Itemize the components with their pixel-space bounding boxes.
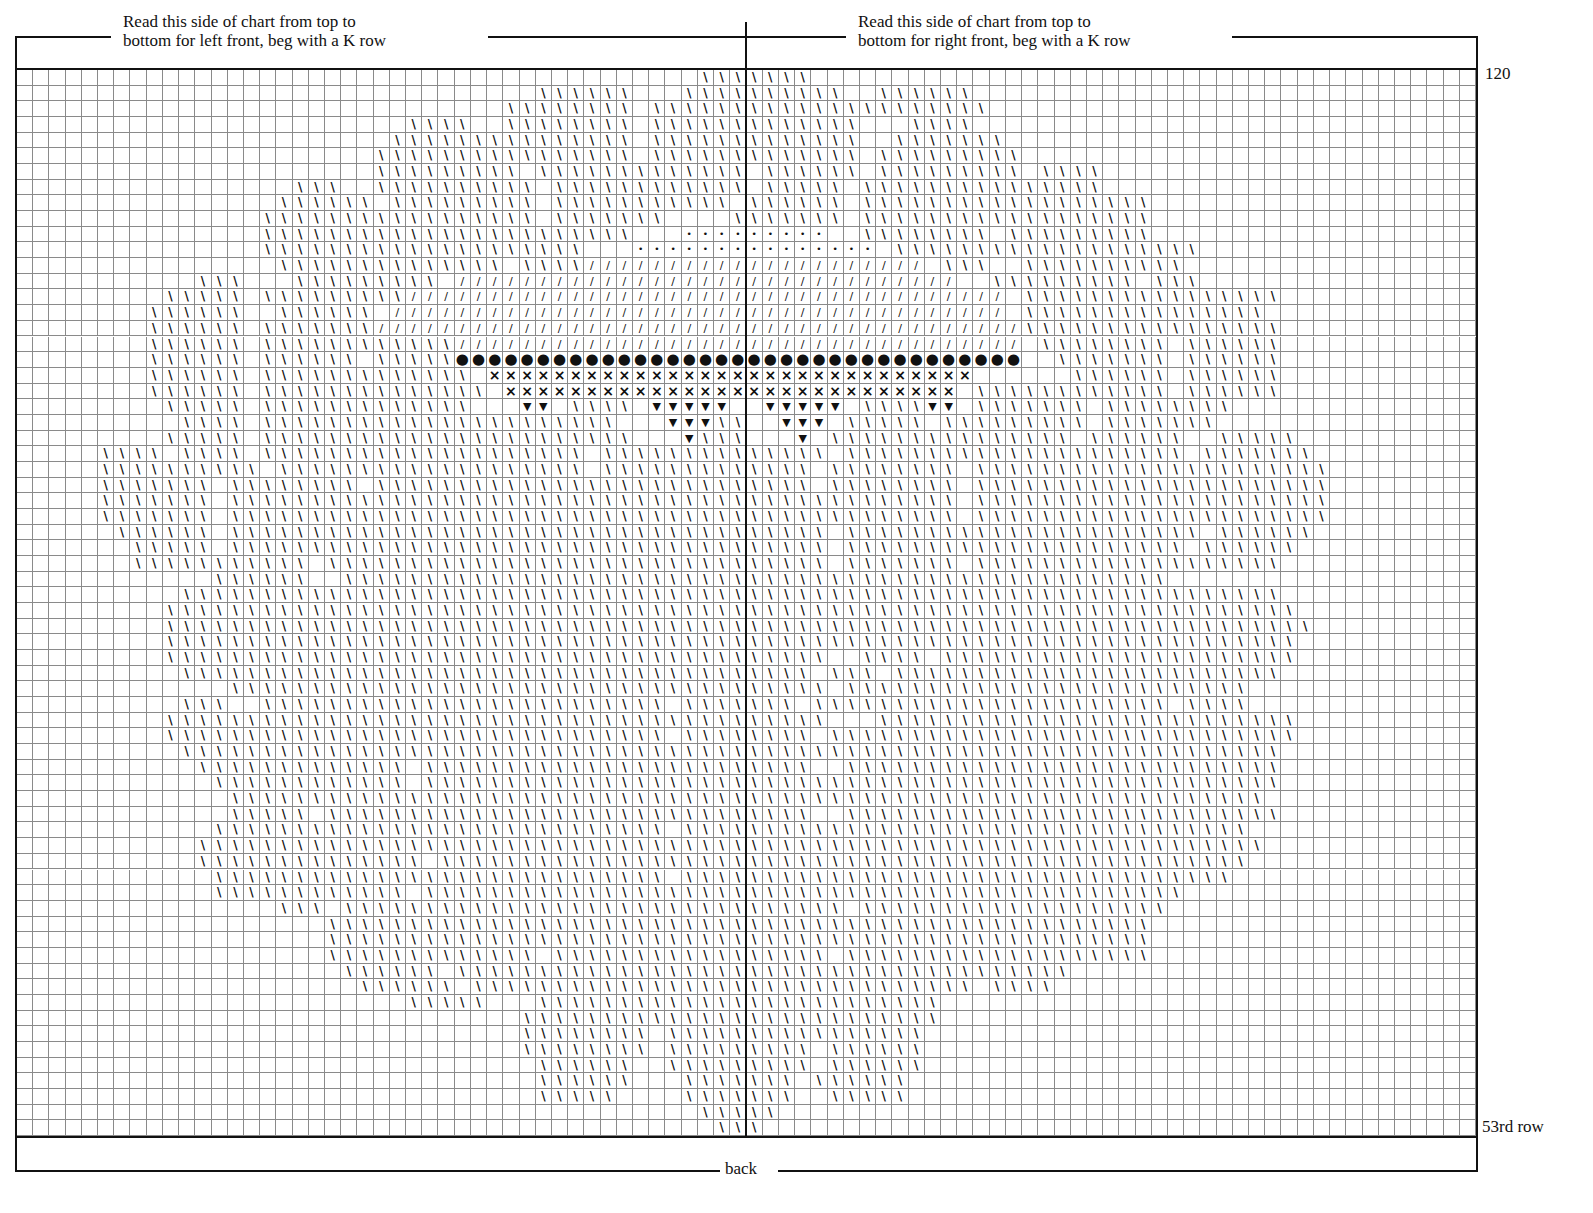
chart-cell: \	[892, 493, 908, 509]
chart-cell	[1298, 728, 1314, 744]
chart-cell: \	[487, 572, 503, 588]
chart-cell: \	[844, 666, 860, 682]
chart-cell: \	[795, 838, 811, 854]
chart-cell	[925, 70, 941, 86]
chart-cell	[82, 1089, 98, 1105]
chart-cell: \	[941, 760, 957, 776]
chart-cell: \	[633, 1026, 649, 1042]
chart-cell: \	[795, 885, 811, 901]
chart-cell	[49, 964, 65, 980]
chart-cell: \	[763, 854, 779, 870]
chart-cell: \	[1168, 634, 1184, 650]
chart-cell: \	[1087, 838, 1103, 854]
chart-cell: \	[406, 948, 422, 964]
chart-cell	[309, 1073, 325, 1089]
chart-cell: \	[228, 603, 244, 619]
chart-cell: \	[341, 431, 357, 447]
chart-cell	[1444, 728, 1460, 744]
chart-cell: \	[374, 697, 390, 713]
chart-cell: \	[779, 822, 795, 838]
chart-cell: \	[1136, 728, 1152, 744]
chart-cell	[1460, 195, 1476, 211]
chart-cell: /	[844, 258, 860, 274]
chart-cell: \	[1217, 854, 1233, 870]
chart-cell: \	[584, 478, 600, 494]
chart-cell	[1233, 274, 1249, 290]
chart-cell: \	[503, 431, 519, 447]
chart-cell	[33, 964, 49, 980]
chart-cell	[1314, 1089, 1330, 1105]
chart-cell: \	[471, 666, 487, 682]
chart-cell: \	[633, 603, 649, 619]
chart-cell	[1460, 760, 1476, 776]
chart-cell: \	[925, 885, 941, 901]
chart-cell: \	[357, 431, 373, 447]
chart-cell: ×	[795, 368, 811, 384]
chart-cell: \	[212, 634, 228, 650]
chart-cell: \	[747, 650, 763, 666]
chart-cell: \	[876, 180, 892, 196]
chart-cell	[49, 681, 65, 697]
chart-cell: \	[1200, 289, 1216, 305]
chart-cell	[1395, 148, 1411, 164]
chart-cell: ×	[584, 368, 600, 384]
bottom-bracket-right-side	[1476, 1138, 1478, 1171]
chart-cell	[1395, 885, 1411, 901]
chart-cell: \	[1087, 509, 1103, 525]
chart-cell	[130, 289, 146, 305]
chart-cell	[66, 760, 82, 776]
chart-cell	[1314, 133, 1330, 149]
chart-cell: ×	[714, 368, 730, 384]
chart-cell	[163, 917, 179, 933]
chart-cell	[49, 697, 65, 713]
chart-cell: \	[957, 822, 973, 838]
chart-cell: \	[633, 791, 649, 807]
chart-cell: \	[1103, 368, 1119, 384]
chart-cell: \	[892, 822, 908, 838]
chart-cell: \	[763, 180, 779, 196]
chart-cell: \	[552, 619, 568, 635]
chart-cell	[406, 1011, 422, 1027]
chart-cell: /	[584, 305, 600, 321]
chart-cell: /	[374, 321, 390, 337]
chart-cell: \	[957, 713, 973, 729]
chart-cell	[1460, 211, 1476, 227]
chart-cell	[1395, 180, 1411, 196]
chart-cell: \	[1136, 948, 1152, 964]
chart-cell: \	[1249, 666, 1265, 682]
chart-cell: \	[195, 289, 211, 305]
chart-cell: \	[552, 195, 568, 211]
chart-cell	[1379, 713, 1395, 729]
chart-cell	[114, 838, 130, 854]
chart-cell	[228, 227, 244, 243]
chart-cell	[1087, 1089, 1103, 1105]
chart-cell	[179, 979, 195, 995]
chart-cell	[1346, 180, 1362, 196]
chart-cell: \	[811, 446, 827, 462]
chart-cell: \	[163, 493, 179, 509]
chart-cell: \	[779, 148, 795, 164]
chart-cell: \	[1055, 211, 1071, 227]
chart-cell	[276, 101, 292, 117]
chart-cell: \	[374, 791, 390, 807]
chart-cell	[438, 1026, 454, 1042]
chart-cell: /	[860, 258, 876, 274]
chart-cell	[179, 681, 195, 697]
chart-cell	[1233, 1073, 1249, 1089]
chart-cell: \	[438, 540, 454, 556]
chart-cell	[1281, 964, 1297, 980]
chart-cell	[82, 1073, 98, 1089]
chart-cell: \	[1119, 697, 1135, 713]
chart-cell: \	[179, 368, 195, 384]
chart-cell: \	[957, 728, 973, 744]
chart-cell	[1038, 1089, 1054, 1105]
chart-cell: \	[552, 415, 568, 431]
chart-cell	[1136, 1042, 1152, 1058]
chart-cell	[1249, 101, 1265, 117]
chart-cell	[1346, 572, 1362, 588]
chart-cell	[147, 1073, 163, 1089]
chart-cell	[1411, 1105, 1427, 1121]
chart-cell	[341, 164, 357, 180]
chart-cell: \	[390, 274, 406, 290]
chart-cell: \	[584, 540, 600, 556]
